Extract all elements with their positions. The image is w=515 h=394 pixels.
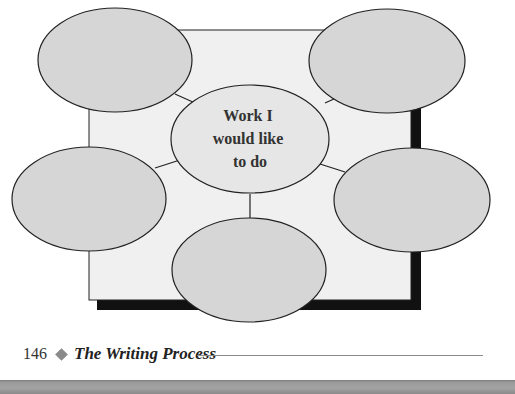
page-number: 146 — [23, 345, 47, 363]
bubble-left[interactable] — [12, 147, 166, 251]
page-bottom-band — [0, 380, 515, 394]
footer-rule — [197, 355, 483, 356]
bubble-top-right[interactable] — [309, 9, 465, 113]
bubble-top-left[interactable] — [38, 8, 192, 112]
cluster-diagram: Work I would like to do — [0, 0, 515, 340]
bubble-right[interactable] — [334, 148, 490, 252]
center-label-line-1: Work I — [223, 107, 272, 124]
center-label-line-2: would like — [213, 130, 284, 147]
diamond-icon — [55, 348, 68, 361]
bubble-bottom[interactable] — [172, 218, 326, 322]
center-label-line-3: to do — [233, 153, 267, 170]
section-title: The Writing Process — [74, 344, 216, 364]
page-footer: 146 The Writing Process — [23, 342, 216, 366]
